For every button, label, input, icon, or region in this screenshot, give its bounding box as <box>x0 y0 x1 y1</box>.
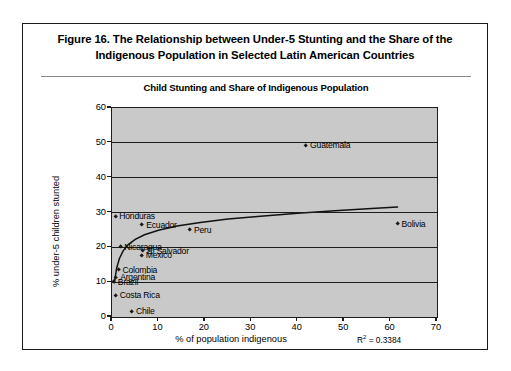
gridline-y-40 <box>112 177 437 178</box>
x-tick-mark-50 <box>342 317 343 321</box>
x-tick-label-60: 60 <box>377 322 403 332</box>
data-point-label-chile: Chile <box>136 306 155 316</box>
x-tick-label-40: 40 <box>284 322 310 332</box>
figure-caption-line-2: Indigenous Population in Selected Latin … <box>33 48 477 64</box>
y-tick-mark-40 <box>107 176 111 177</box>
gridline-y-10 <box>112 282 437 283</box>
y-tick-mark-50 <box>107 141 111 142</box>
data-point-label-costa-rica: Costa Rica <box>120 290 160 300</box>
data-point-label-peru: Peru <box>194 225 211 235</box>
x-tick-label-50: 50 <box>330 322 356 332</box>
y-tick-mark-60 <box>107 106 111 107</box>
y-axis-title: % under-5 children stunted <box>51 176 61 287</box>
data-point-label-guatemala: Guatemala <box>310 140 350 150</box>
x-tick-mark-60 <box>389 317 390 321</box>
x-tick-label-20: 20 <box>191 322 217 332</box>
figure-frame: Figure 16. The Relationship between Unde… <box>22 23 488 350</box>
x-tick-mark-10 <box>157 317 158 321</box>
y-tick-label-30: 30 <box>84 207 106 217</box>
figure-caption-line-1: Figure 16. The Relationship between Unde… <box>33 32 477 48</box>
x-tick-label-10: 10 <box>144 322 170 332</box>
figure-caption: Figure 16. The Relationship between Unde… <box>33 32 477 63</box>
gridline-y-30 <box>112 212 437 213</box>
chart-area: Child Stunting and Share of Indigenous P… <box>23 82 489 348</box>
y-tick-label-0: 0 <box>84 311 106 321</box>
y-tick-label-60: 60 <box>84 102 106 112</box>
chart-title: Child Stunting and Share of Indigenous P… <box>23 82 489 93</box>
x-tick-mark-20 <box>203 317 204 321</box>
plot-area: GuatemalaBoliviaHondurasEcuadorPeruNicar… <box>111 107 438 318</box>
y-tick-label-20: 20 <box>84 241 106 251</box>
data-point-label-bolivia: Bolivia <box>402 219 426 229</box>
gridline-y-50 <box>112 142 437 143</box>
y-tick-label-50: 50 <box>84 137 106 147</box>
x-axis-title: % of population indigenous <box>111 334 351 344</box>
x-tick-mark-70 <box>435 317 436 321</box>
screenshot-page: Figure 16. The Relationship between Unde… <box>0 0 511 371</box>
y-tick-label-40: 40 <box>84 172 106 182</box>
r-squared-annotation: R2 = 0.3384 <box>357 334 401 345</box>
caption-divider <box>41 76 471 77</box>
y-tick-mark-20 <box>107 246 111 247</box>
data-point-label-mexico: Mexico <box>146 250 172 260</box>
x-tick-mark-30 <box>250 317 251 321</box>
x-tick-mark-40 <box>296 317 297 321</box>
x-tick-label-0: 0 <box>98 322 124 332</box>
data-point-label-ecuador: Ecuador <box>146 220 177 230</box>
data-point-label-brazil: Brazil <box>118 277 138 287</box>
x-tick-mark-0 <box>110 317 111 321</box>
r-squared-value: = 0.3384 <box>366 335 401 345</box>
y-tick-mark-10 <box>107 281 111 282</box>
x-tick-label-70: 70 <box>423 322 449 332</box>
x-tick-label-30: 30 <box>237 322 263 332</box>
y-tick-label-10: 10 <box>84 276 106 286</box>
y-tick-mark-30 <box>107 211 111 212</box>
